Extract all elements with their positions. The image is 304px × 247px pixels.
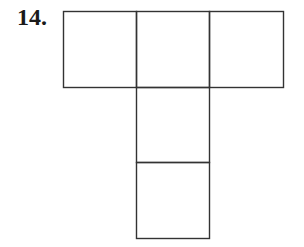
- net-square-4: [137, 88, 210, 163]
- net-square-1: [64, 12, 137, 88]
- figure-root: 14.: [0, 0, 304, 247]
- net-square-5: [137, 163, 210, 239]
- net-square-3: [210, 12, 284, 88]
- t-shaped-net-diagram: [0, 0, 304, 247]
- net-square-2: [137, 12, 210, 88]
